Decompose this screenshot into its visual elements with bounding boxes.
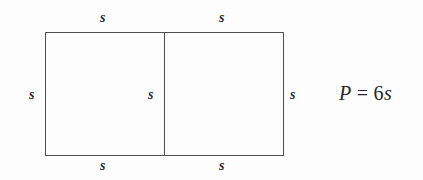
label-bottom-right-side: s [219,159,224,173]
geometry-figure: s s s s s s s P=6s [0,0,423,180]
label-right-side: s [290,88,295,102]
equation-operator: = [357,82,369,104]
label-left-side: s [29,88,34,102]
equation-lhs-variable: P [339,82,352,104]
label-middle-divider: s [148,88,153,102]
perimeter-equation: P=6s [339,83,392,103]
rectangle-divider-line [164,32,165,156]
label-bottom-left-side: s [100,159,105,173]
label-top-left-side: s [100,11,105,25]
label-top-right-side: s [219,11,224,25]
equation-rhs-variable: s [384,82,392,104]
equation-coefficient: 6 [374,82,385,104]
